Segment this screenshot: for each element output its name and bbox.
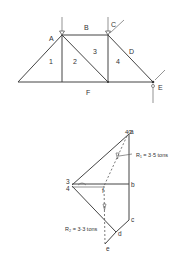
point-b: b <box>131 181 135 188</box>
point-f: f <box>102 187 104 194</box>
label-3: 3 <box>93 48 97 55</box>
label-1: 1 <box>49 58 53 65</box>
point-d: d <box>118 230 122 237</box>
label-4: 4 <box>116 58 120 65</box>
label-A: A <box>49 35 54 42</box>
truss-frame <box>18 35 153 82</box>
force-diagram-labels: a b c d e f 3 4 R₁ = 3·5 tons R₂ = 3·3 t… <box>65 128 168 252</box>
truss-and-force-diagram: A B C D E F 1 2 3 4 40 a b <box>0 0 190 266</box>
point-c: c <box>131 216 135 223</box>
reaction-r1-label: R₁ = 3·5 tons <box>136 152 168 158</box>
label-B: B <box>84 24 89 31</box>
reaction-r2-label: R₂ = 3·3 tons <box>65 226 97 232</box>
point-4: 4 <box>66 185 70 192</box>
point-3: 3 <box>66 178 70 185</box>
point-e: e <box>106 245 110 252</box>
label-F: F <box>86 89 90 96</box>
label-E: E <box>158 84 163 91</box>
point-a: a <box>130 128 134 135</box>
label-C: C <box>111 21 116 28</box>
label-D: D <box>129 48 134 55</box>
label-2: 2 <box>73 58 77 65</box>
